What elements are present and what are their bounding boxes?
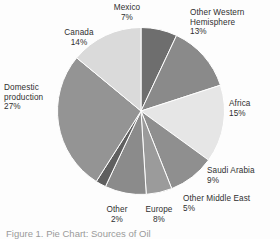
- pie-chart-graphic: [57, 27, 225, 195]
- pie-slices: [58, 28, 225, 195]
- slice-label-other-middle-east-name: Other Middle East: [183, 194, 277, 204]
- slice-label-domestic-production-value: 27%: [4, 102, 62, 112]
- slice-label-saudi-arabia-value: 9%: [207, 176, 279, 186]
- pie-svg: [57, 27, 225, 195]
- slice-label-mexico-value: 7%: [103, 13, 151, 23]
- slice-label-saudi-arabia-name: Saudi Arabia: [207, 166, 279, 176]
- slice-label-other: Other 2%: [100, 205, 134, 224]
- slice-label-other-name: Other: [100, 205, 134, 215]
- slice-label-other-middle-east-value: 5%: [183, 204, 277, 214]
- slice-label-other-western-hemisphere: Other Western Hemisphere 13%: [190, 8, 276, 37]
- slice-label-africa-value: 15%: [229, 109, 277, 119]
- slice-label-africa-name: Africa: [229, 99, 277, 109]
- slice-label-domestic-production-name2: production: [4, 93, 62, 103]
- slice-label-other-western-hemisphere-value: 13%: [190, 27, 276, 37]
- slice-label-canada-value: 14%: [55, 38, 103, 48]
- slice-label-europe-value: 8%: [139, 215, 179, 225]
- figure-caption: Figure 1. Pie Chart: Sources of Oil: [6, 228, 274, 239]
- slice-label-mexico-name: Mexico: [103, 3, 151, 13]
- slice-label-other-western-hemisphere-name2: Hemisphere: [190, 18, 276, 28]
- slice-label-europe-name: Europe: [139, 205, 179, 215]
- slice-label-africa: Africa 15%: [229, 99, 277, 118]
- slice-label-domestic-production-name: Domestic: [4, 83, 62, 93]
- slice-label-other-middle-east: Other Middle East 5%: [183, 194, 277, 213]
- slice-label-europe: Europe 8%: [139, 205, 179, 224]
- slice-label-canada-name: Canada: [55, 28, 103, 38]
- slice-label-mexico: Mexico 7%: [103, 3, 151, 22]
- slice-label-other-western-hemisphere-name: Other Western: [190, 8, 276, 18]
- slice-label-saudi-arabia: Saudi Arabia 9%: [207, 166, 279, 185]
- pie-chart-figure: Mexico 7% Other Western Hemisphere 13% C…: [0, 0, 280, 239]
- slice-label-other-value: 2%: [100, 215, 134, 225]
- slice-label-canada: Canada 14%: [55, 28, 103, 47]
- slice-label-domestic-production: Domestic production 27%: [4, 83, 62, 112]
